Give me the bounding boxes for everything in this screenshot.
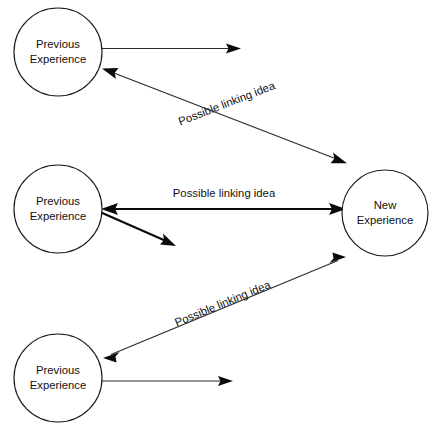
node-label-line1: New (374, 199, 397, 211)
arrowhead-end-icon (330, 253, 347, 264)
edge-stub-top (102, 44, 241, 54)
arrowhead-start-icon (103, 352, 120, 363)
edge-stub-middle-line (100, 212, 166, 241)
edge-stub-bottom (102, 376, 233, 386)
node-label-line1: Previous (36, 364, 80, 376)
node-new-experience[interactable]: New Experience (342, 170, 428, 256)
edge-label-linking-bottom: Possible linking idea (173, 278, 273, 329)
node-previous-experience-middle[interactable]: Previous Experience (14, 165, 102, 253)
edge-linking-middle: Possible linking idea (101, 187, 346, 215)
diagram-canvas: Possible linking idea Possible linking i… (0, 0, 435, 437)
concept-map-diagram: Possible linking idea Possible linking i… (0, 0, 435, 437)
node-label-line2: Experience (30, 379, 87, 391)
node-label-line2: Experience (357, 214, 414, 226)
edge-stub-middle (100, 212, 176, 246)
edge-linking-top-line (110, 72, 339, 161)
node-label-line2: Experience (30, 53, 87, 65)
node-previous-experience-bottom[interactable]: Previous Experience (14, 334, 102, 422)
node-label-line1: Previous (36, 195, 80, 207)
edge-linking-top: Possible linking idea (102, 68, 347, 163)
edge-linking-bottom: Possible linking idea (103, 253, 346, 363)
node-previous-experience-top[interactable]: Previous Experience (14, 8, 102, 96)
node-label-line1: Previous (36, 38, 80, 50)
node-label-line2: Experience (30, 210, 87, 222)
edge-label-linking-middle: Possible linking idea (173, 187, 276, 199)
